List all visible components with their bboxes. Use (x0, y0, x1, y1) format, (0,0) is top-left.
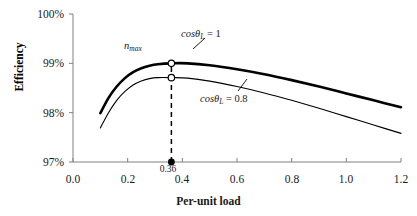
y-axis-title: Efficiency (13, 42, 25, 91)
peak-marker-cos1 (168, 60, 174, 66)
series-line-cos-theta-1 (100, 63, 401, 113)
x-tick-label-0-6: 0.6 (217, 173, 257, 185)
x-tick-label-0-0: 0.0 (53, 173, 93, 185)
cos-theta-08-text: cosθ (200, 93, 219, 104)
cos-theta-1-sub: L (200, 32, 204, 41)
cos-theta-1-text: cosθ (181, 28, 200, 39)
x-tick-label-0-4: 0.4 (162, 173, 202, 185)
series-label-cos-theta-1: cosθL = 1 (181, 28, 221, 39)
peak-marker-cos08 (168, 74, 174, 80)
x-axis-ticks (73, 158, 401, 162)
optimal-load-label: 0.36 (151, 164, 185, 174)
series-label-cos-theta-08: cosθL = 0.8 (200, 93, 248, 104)
series-line-cos-theta-08 (100, 78, 401, 134)
eta-max-subscript: max (129, 44, 142, 53)
cos-theta-08-sub: L (219, 97, 223, 106)
x-tick-label-1-2: 1.2 (381, 173, 417, 185)
y-axis-title-wrap: Efficiency (9, 22, 27, 112)
cos-theta-08-eq: = 0.8 (223, 93, 247, 104)
x-tick-label-1-0: 1.0 (326, 173, 366, 185)
leader-line-cos-theta-08 (238, 79, 247, 91)
axes-group (73, 14, 401, 162)
eta-max-annotation: nmax (124, 40, 142, 51)
x-tick-label-0-8: 0.8 (272, 173, 312, 185)
x-tick-label-0-2: 0.2 (108, 173, 148, 185)
y-axis-ticks (69, 14, 73, 162)
cos-theta-1-eq: = 1 (204, 28, 220, 39)
y-tick-label-100: 100% (20, 8, 64, 20)
efficiency-vs-per-unit-load-chart: 100% 99% 98% 97% 0.0 0.2 0.4 0.6 0.8 1.0… (0, 0, 417, 216)
x-axis-title: Per-unit load (0, 195, 417, 207)
y-tick-label-97: 97% (20, 156, 64, 168)
